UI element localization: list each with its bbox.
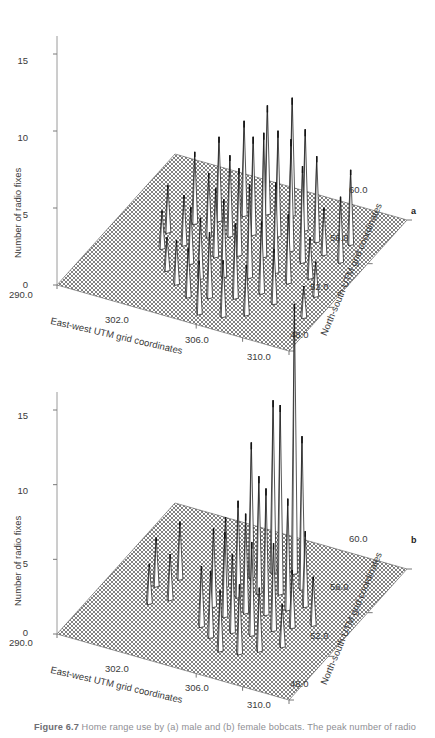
panel-b-ytick-10: 10	[6, 485, 28, 496]
panel-b-xtick-306: 306.0	[185, 682, 209, 693]
figure-caption-number: Figure 6.7	[34, 722, 79, 732]
panel-a-ytick-15: 15	[6, 55, 28, 66]
panel-a-ztick-48: 48.0	[290, 329, 309, 340]
panel-a-ztick-52: 52.0	[310, 281, 329, 292]
panel-a-y-axis-label: Number of radio fixes	[12, 168, 23, 258]
panel-b-ztick-56: 56.0	[330, 581, 349, 592]
panel-b-ytick-15: 15	[6, 410, 28, 421]
panel-b-xtick-310: 310.0	[247, 699, 271, 710]
panel-a-letter: a	[411, 206, 416, 216]
running-head	[6, 0, 306, 7]
panel-b-xtick-290: 290.0	[9, 637, 33, 648]
surface-plot-b-svg	[0, 382, 435, 712]
panel-a-xtick-306: 306.0	[185, 334, 209, 345]
panel-b-ztick-48: 48.0	[290, 678, 309, 689]
panel-a-xtick-290: 290.0	[9, 289, 33, 300]
panel-b: 15 10 5 0 Number of radio fixes 290.0 30…	[0, 382, 435, 712]
figure-caption-text: Home range use by (a) male and (b) femal…	[82, 722, 416, 732]
panel-a-xtick-310: 310.0	[247, 351, 271, 362]
panel-b-ztick-60: 60.0	[349, 533, 368, 544]
figure-page: 15 10 5 0 Number of radio fixes 290.0 30…	[0, 0, 435, 738]
surface-plot-b	[0, 382, 435, 712]
panel-a-ztick-60: 60.0	[349, 184, 368, 195]
panel-b-y-axis-label: Number of radio fixes	[12, 516, 23, 606]
figure-caption: Figure 6.7 Home range use by (a) male an…	[34, 722, 435, 732]
panel-b-ztick-52: 52.0	[310, 630, 329, 641]
panel-a-ytick-10: 10	[6, 132, 28, 143]
panel-a-ztick-56: 56.0	[330, 232, 349, 243]
panel-a: 15 10 5 0 Number of radio fixes 290.0 30…	[0, 28, 435, 368]
panel-b-letter: b	[411, 535, 417, 545]
